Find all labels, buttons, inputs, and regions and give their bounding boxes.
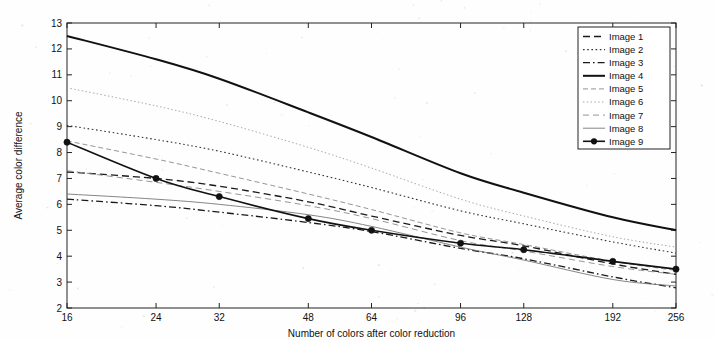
y-tick-label: 13 xyxy=(51,18,63,29)
speck xyxy=(711,294,713,296)
speck xyxy=(503,28,505,29)
legend-label-8: Image 8 xyxy=(609,123,643,134)
x-tick-label: 32 xyxy=(214,312,226,323)
speck xyxy=(707,48,708,49)
legend-label-9: Image 9 xyxy=(609,136,643,147)
speck xyxy=(302,267,304,269)
speck xyxy=(30,123,32,125)
speck xyxy=(77,288,78,290)
x-tick-label: 256 xyxy=(668,312,685,323)
speck xyxy=(75,176,76,177)
speck xyxy=(426,102,428,104)
speck xyxy=(512,252,514,254)
speck xyxy=(378,264,380,266)
speck xyxy=(150,66,152,67)
y-tick-label: 8 xyxy=(56,147,62,158)
speck xyxy=(539,3,540,5)
speck xyxy=(301,37,303,38)
speck xyxy=(22,25,24,27)
speck xyxy=(309,125,310,126)
series-marker xyxy=(64,139,70,145)
speck xyxy=(274,102,276,103)
x-tick-label: 192 xyxy=(604,312,621,323)
series-marker xyxy=(153,175,159,181)
speck xyxy=(208,5,210,7)
speck xyxy=(47,207,49,209)
speck xyxy=(222,224,223,226)
speck xyxy=(566,50,567,52)
y-tick-label: 4 xyxy=(56,251,62,262)
legend-label-4: Image 4 xyxy=(609,70,643,81)
speck xyxy=(312,231,313,232)
legend-label-2: Image 2 xyxy=(609,44,643,55)
y-tick-label: 6 xyxy=(56,199,62,210)
y-tick-label: 5 xyxy=(56,225,62,236)
speck xyxy=(530,12,531,13)
speck xyxy=(93,77,94,78)
speck xyxy=(391,270,392,271)
legend-marker xyxy=(591,138,597,144)
speck xyxy=(215,202,216,203)
y-tick-label: 12 xyxy=(51,43,63,54)
series-marker xyxy=(368,227,374,233)
speck xyxy=(35,47,37,49)
speck xyxy=(700,242,702,243)
series-marker xyxy=(305,216,311,222)
line-chart: 2345678910111213162432486496128192256 Nu… xyxy=(0,0,714,341)
speck xyxy=(376,32,377,33)
x-tick-label: 128 xyxy=(515,312,532,323)
x-tick-label: 16 xyxy=(61,312,73,323)
x-tick-label: 48 xyxy=(303,312,315,323)
x-tick-label: 96 xyxy=(455,312,467,323)
speck xyxy=(226,104,227,106)
speck xyxy=(701,84,703,86)
legend-label-1: Image 1 xyxy=(609,31,643,42)
speck xyxy=(213,287,215,288)
speck xyxy=(422,179,423,180)
speck xyxy=(414,310,416,312)
speck xyxy=(394,97,395,98)
series-line-7 xyxy=(67,171,676,275)
speck xyxy=(9,290,11,291)
speck xyxy=(530,30,531,31)
speck xyxy=(57,263,58,264)
speck xyxy=(417,303,418,304)
y-axis-title: Average color difference xyxy=(13,111,24,219)
speck xyxy=(478,235,479,237)
y-tick-label: 3 xyxy=(56,277,62,288)
speck xyxy=(162,169,163,171)
speck xyxy=(614,173,615,175)
x-axis-title: Number of colors after color reduction xyxy=(288,328,455,339)
speck xyxy=(586,185,587,186)
axis-labels: Number of colors after color reductionAv… xyxy=(13,111,455,339)
speck xyxy=(431,211,433,212)
speck xyxy=(413,4,414,6)
speck xyxy=(186,217,188,219)
speck xyxy=(109,73,110,74)
series-marker xyxy=(521,247,527,253)
speck xyxy=(399,68,400,69)
y-tick-label: 11 xyxy=(52,69,63,80)
speck xyxy=(281,114,283,116)
speck xyxy=(464,7,465,9)
speck xyxy=(131,75,132,76)
legend-label-3: Image 3 xyxy=(609,57,643,68)
speck xyxy=(655,311,656,313)
speck xyxy=(685,319,687,320)
series-line-3 xyxy=(67,199,676,288)
speck xyxy=(413,207,415,208)
legend[interactable]: Image 1Image 2Image 3Image 4Image 5Image… xyxy=(578,27,670,149)
series-marker xyxy=(673,266,679,272)
speck xyxy=(491,153,492,155)
speck xyxy=(266,53,268,54)
y-tick-label: 7 xyxy=(56,173,62,184)
speck xyxy=(637,24,639,25)
x-tick-label: 24 xyxy=(150,312,162,323)
series-marker xyxy=(216,193,222,199)
speck xyxy=(158,155,160,156)
speck xyxy=(429,157,430,158)
speck xyxy=(86,168,87,170)
figure-root: 2345678910111213162432486496128192256 Nu… xyxy=(0,0,714,341)
legend-label-7: Image 7 xyxy=(609,110,643,121)
speck xyxy=(378,297,380,298)
